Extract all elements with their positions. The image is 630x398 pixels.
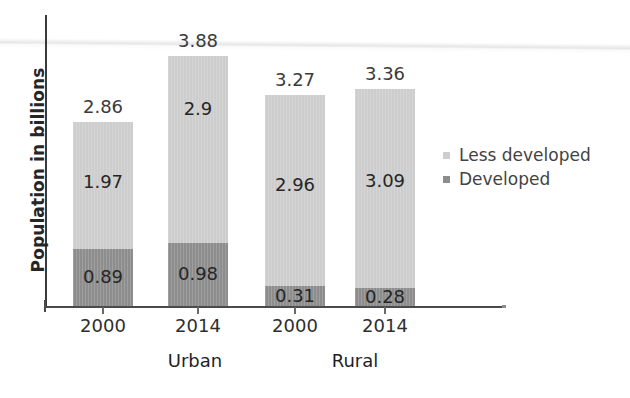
bar-total-label: 3.36: [355, 63, 415, 84]
bar-segment-developed: 0.28: [355, 288, 415, 306]
bar-segment-less-developed: 3.09: [355, 89, 415, 288]
bar-segment-developed: 0.89: [73, 249, 133, 306]
x-axis-tick-1: [102, 307, 104, 314]
bar-total-label: 3.88: [168, 30, 228, 51]
legend-item-developed: Developed: [443, 167, 591, 191]
y-axis-title: Population in billions: [28, 50, 48, 290]
legend-label-developed: Developed: [459, 169, 550, 189]
legend-label-less-developed: Less developed: [459, 145, 591, 165]
bar-total-label: 3.27: [265, 69, 325, 90]
scan-artifact-line: [0, 38, 630, 54]
group-label-rural: Rural: [285, 350, 425, 371]
bar-rural-2000: 3.27 2.96 0.31: [265, 95, 325, 306]
x-axis-label-urban-2000: 2000: [58, 315, 148, 336]
x-axis-label-rural-2014: 2014: [340, 315, 430, 336]
bar-segment-label-less-developed: 3.09: [355, 170, 415, 191]
x-axis-tick-3: [294, 307, 296, 314]
bar-segment-developed: 0.98: [168, 243, 228, 306]
bar-segment-label-developed: 0.98: [168, 263, 228, 284]
x-axis-label-rural-2000: 2000: [250, 315, 340, 336]
bar-segment-label-developed: 0.89: [73, 266, 133, 287]
bar-segment-label-developed: 0.31: [265, 285, 325, 306]
legend: Less developed Developed: [443, 143, 591, 191]
bar-segment-less-developed: 2.9: [168, 56, 228, 243]
bar-segment-label-less-developed: 2.96: [265, 174, 325, 195]
bar-segment-developed: 0.31: [265, 286, 325, 306]
axis-end-artifact: [502, 305, 506, 308]
bar-segment-label-developed: 0.28: [355, 286, 415, 307]
bar-total-label: 2.86: [73, 96, 133, 117]
bar-segment-less-developed: 2.96: [265, 95, 325, 286]
legend-item-less-developed: Less developed: [443, 143, 591, 167]
bar-segment-label-less-developed: 2.9: [168, 98, 228, 119]
bar-urban-2000: 2.86 1.97 0.89: [73, 122, 133, 306]
bar-segment-label-less-developed: 1.97: [73, 171, 133, 192]
group-label-urban: Urban: [125, 350, 265, 371]
x-axis-tick-4: [384, 307, 386, 314]
x-axis-label-urban-2014: 2014: [153, 315, 243, 336]
bar-urban-2014: 3.88 2.9 0.98: [168, 56, 228, 306]
legend-swatch-icon-developed: [443, 176, 450, 183]
x-axis-tick-2: [197, 307, 199, 314]
legend-swatch-icon-less-developed: [443, 152, 450, 159]
bar-rural-2014: 3.36 3.09 0.28: [355, 89, 415, 306]
axis-origin-tick: [44, 300, 46, 312]
stacked-bar-chart: Population in billions 2.86 1.97 0.89 3.…: [0, 0, 630, 398]
bar-segment-less-developed: 1.97: [73, 122, 133, 249]
x-axis-line: [45, 306, 505, 308]
